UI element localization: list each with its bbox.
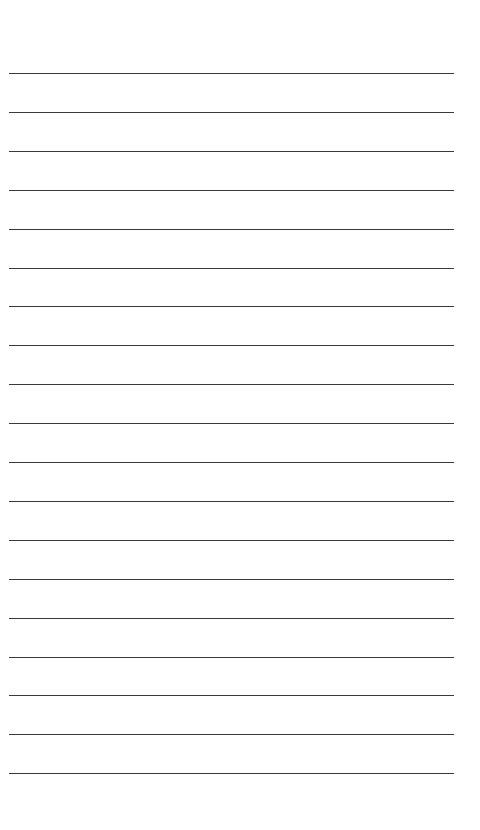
ruled-line — [9, 190, 454, 191]
ruled-line — [9, 229, 454, 230]
ruled-line — [9, 268, 454, 269]
ruled-line — [9, 501, 454, 502]
ruled-line — [9, 112, 454, 113]
ruled-line — [9, 306, 454, 307]
ruled-line — [9, 345, 454, 346]
ruled-line — [9, 773, 454, 774]
lined-paper-page — [0, 0, 480, 830]
ruled-line — [9, 734, 454, 735]
ruled-line — [9, 579, 454, 580]
ruled-line — [9, 73, 454, 74]
ruled-line — [9, 423, 454, 424]
ruled-line — [9, 462, 454, 463]
ruled-line — [9, 384, 454, 385]
ruled-line — [9, 151, 454, 152]
ruled-line — [9, 695, 454, 696]
ruled-line — [9, 657, 454, 658]
ruled-line — [9, 618, 454, 619]
ruled-line — [9, 540, 454, 541]
